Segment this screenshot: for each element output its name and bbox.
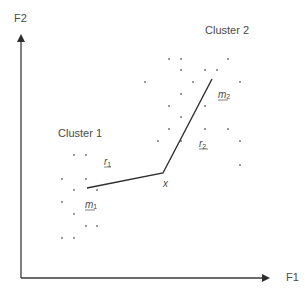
- data-point: [180, 116, 182, 118]
- data-point: [168, 105, 170, 107]
- sample-point-label: x: [162, 178, 169, 189]
- data-point: [239, 164, 241, 166]
- mean-m1-label: m1: [85, 199, 97, 210]
- data-point: [61, 178, 63, 180]
- data-point: [61, 201, 63, 203]
- data-point: [61, 237, 63, 239]
- data-point: [180, 69, 182, 71]
- svg-text:r1: r1: [104, 156, 111, 168]
- axes: [21, 36, 268, 278]
- data-point: [239, 140, 241, 142]
- data-point: [96, 189, 98, 191]
- svg-text:m1: m1: [85, 199, 97, 210]
- data-point: [85, 225, 87, 227]
- mean-m2-label: m2: [218, 89, 230, 100]
- data-point: [73, 237, 75, 239]
- data-point: [239, 81, 241, 83]
- svg-text:r2: r2: [199, 138, 206, 150]
- cluster-1-points: [61, 154, 98, 239]
- data-point: [204, 105, 206, 107]
- data-point: [204, 69, 206, 71]
- y-axis-label: F2: [14, 12, 27, 24]
- cluster-1-label: Cluster 1: [58, 127, 102, 139]
- cluster-2-points: [144, 58, 241, 166]
- data-point: [168, 58, 170, 60]
- data-point: [168, 128, 170, 130]
- data-point: [157, 140, 159, 142]
- data-point: [227, 128, 229, 130]
- svg-text:m2: m2: [218, 89, 230, 100]
- cluster-distance-diagram: F2 F1 Cluster 1 Cluster 2 r1 r2 m1 m2 x: [0, 0, 305, 295]
- distance-lines: [87, 79, 212, 188]
- data-point: [180, 93, 182, 95]
- data-point: [85, 178, 87, 180]
- data-point: [144, 81, 146, 83]
- distance-r2-label: r2: [199, 138, 208, 150]
- data-point: [216, 69, 218, 71]
- data-point: [73, 213, 75, 215]
- cluster-2-label: Cluster 2: [205, 24, 249, 36]
- data-point: [204, 128, 206, 130]
- x-axis-label: F1: [286, 271, 299, 283]
- data-point: [73, 154, 75, 156]
- data-point: [227, 58, 229, 60]
- data-point: [85, 154, 87, 156]
- data-point: [73, 189, 75, 191]
- data-point: [192, 81, 194, 83]
- data-point: [96, 225, 98, 227]
- distance-r1-label: r1: [104, 156, 111, 168]
- data-point: [180, 58, 182, 60]
